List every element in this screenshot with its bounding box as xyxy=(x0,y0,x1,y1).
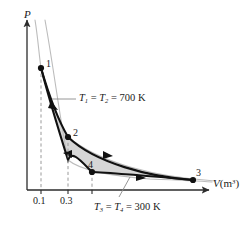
pv-diagram-figure: P V(m3) 0.1 0.3 1 2 3 4 T1 = T2 = 700 K … xyxy=(0,0,250,225)
hot-iso-equals-1: = xyxy=(91,92,97,103)
x-tick-label-01-text: 0.1 xyxy=(33,195,46,206)
x-tick-label-03-text: 0.3 xyxy=(60,195,73,206)
state-label-1-text: 1 xyxy=(46,58,51,69)
state-label-3-text: 3 xyxy=(196,167,201,178)
state-label-4: 4 xyxy=(88,160,93,170)
y-axis-label: P xyxy=(24,9,31,20)
state-label-1: 1 xyxy=(46,59,51,69)
state-marker-2 xyxy=(65,134,71,140)
direction-arrow-2-3 xyxy=(103,151,113,159)
hot-iso-value: 700 xyxy=(120,92,136,103)
cold-iso-value: 300 xyxy=(135,201,151,212)
annotation-hot-isotherm: T1 = T2 = 700 K xyxy=(79,93,146,104)
pv-diagram-canvas xyxy=(0,0,250,225)
state-label-4-text: 4 xyxy=(88,159,93,170)
hot-iso-unit: K xyxy=(138,92,146,103)
x-tick-label-01: 0.1 xyxy=(33,196,46,206)
x-tick-label-03: 0.3 xyxy=(60,196,73,206)
x-axis-label: V(m3) xyxy=(213,178,239,189)
state-label-2: 2 xyxy=(73,128,78,138)
cold-iso-equals-1: = xyxy=(106,201,112,212)
x-axis-label-symbol: V xyxy=(213,177,220,189)
state-label-2-text: 2 xyxy=(73,127,78,138)
state-label-3: 3 xyxy=(196,168,201,178)
x-axis-label-unit-close: ) xyxy=(235,177,239,189)
x-axis-label-unit-open: (m xyxy=(220,177,232,189)
y-axis-label-text: P xyxy=(24,8,31,20)
annotation-cold-isotherm: T3 = T4 = 300 K xyxy=(94,202,161,213)
cold-iso-unit: K xyxy=(153,201,161,212)
leader-line-300k xyxy=(119,177,130,197)
state-marker-1 xyxy=(38,65,44,71)
